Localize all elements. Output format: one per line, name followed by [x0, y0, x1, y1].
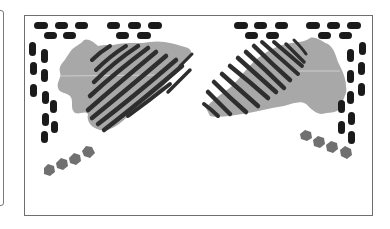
left-motif [29, 22, 192, 176]
pattern-figure [0, 0, 390, 229]
left-blotches [44, 146, 95, 176]
right-blotches [300, 130, 352, 159]
right-motif [204, 22, 366, 159]
